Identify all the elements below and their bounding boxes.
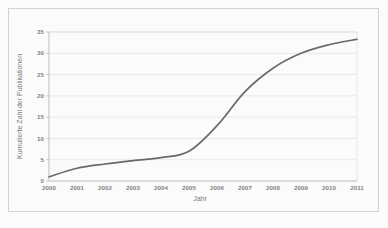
- x-tick-label: 2003: [126, 184, 140, 191]
- y-axis-tick-labels: 05101520253035: [37, 28, 44, 184]
- figure-container: 05101520253035 2000200120022003200420052…: [0, 0, 388, 228]
- x-tick-label: 2010: [322, 184, 336, 191]
- x-tick-label: 2000: [42, 184, 56, 191]
- x-tick-label: 2008: [266, 184, 280, 191]
- data-series-line: [49, 39, 357, 177]
- y-tick-label: 5: [41, 156, 45, 163]
- y-tick-label: 10: [37, 135, 44, 142]
- line-chart: 05101520253035 2000200120022003200420052…: [0, 0, 388, 228]
- x-tick-label: 2009: [294, 184, 308, 191]
- x-tick-label: 2006: [210, 184, 224, 191]
- y-tick-label: 15: [37, 113, 44, 120]
- x-axis-title: Jahr: [193, 195, 207, 202]
- x-tick-label: 2007: [238, 184, 252, 191]
- x-tick-label: 2001: [70, 184, 84, 191]
- x-tick-label: 2011: [350, 184, 364, 191]
- x-tick-label: 2004: [154, 184, 168, 191]
- y-tick-label: 30: [37, 49, 44, 56]
- y-tick-label: 25: [37, 71, 44, 78]
- y-axis-title: Kumulierte Zahl der Publikationen: [16, 54, 23, 159]
- x-tick-label: 2005: [182, 184, 196, 191]
- x-axis-tick-labels: 2000200120022003200420052006200720082009…: [42, 184, 364, 191]
- axis-lines: [49, 32, 357, 181]
- y-tick-label: 20: [37, 92, 44, 99]
- x-tick-label: 2002: [98, 184, 112, 191]
- y-tick-label: 35: [37, 28, 44, 35]
